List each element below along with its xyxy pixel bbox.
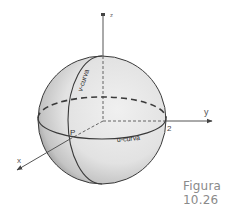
sphere — [38, 56, 166, 184]
y-axis-label: y — [204, 107, 209, 117]
sphere-diagram: z y x 2 P u-curva v-curva — [0, 0, 248, 209]
figure-caption: Figura 10.26 — [183, 179, 248, 207]
radius-tick-label: 2 — [167, 124, 172, 133]
z-axis-tip — [101, 13, 105, 16]
z-axis-label: z — [110, 12, 113, 18]
x-axis-label: x — [17, 156, 21, 165]
point-p-label: P — [70, 128, 75, 137]
